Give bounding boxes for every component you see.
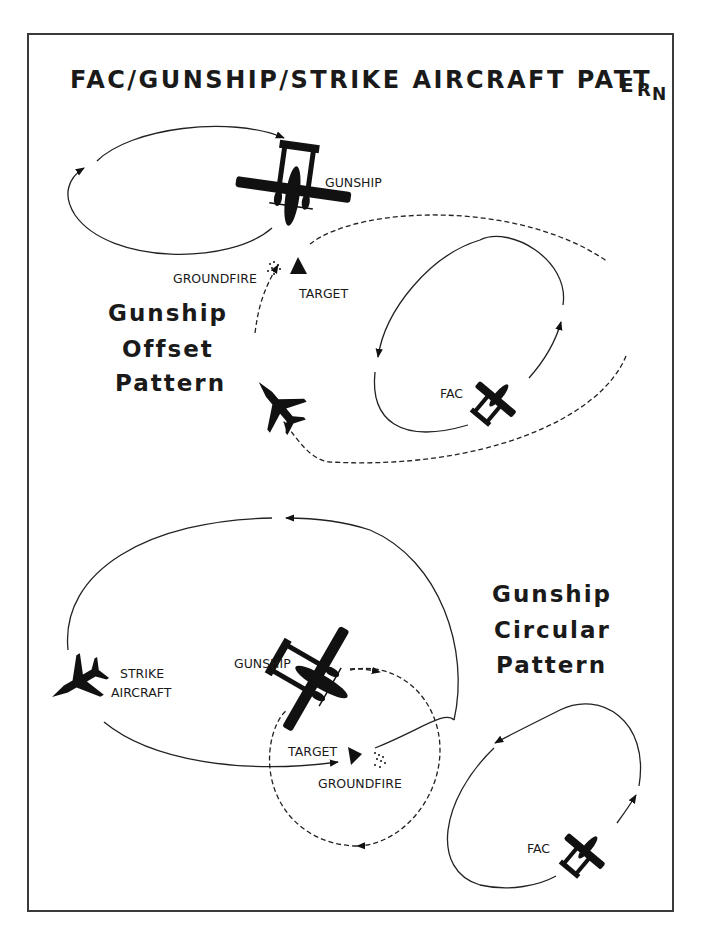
circular-heading-line1: Gunship [492, 581, 612, 607]
groundfire-label: GROUNDFIRE [173, 271, 257, 286]
fac-aircraft-icon [461, 369, 527, 434]
offset-heading-line3: Pattern [115, 370, 226, 396]
strike-jet-icon [240, 367, 315, 443]
fac-label: FAC [527, 841, 550, 856]
svg-text:E: E [620, 73, 636, 97]
diagram-title: FAC/GUNSHIP/STRIKE AIRCRAFT PATT E R N [70, 66, 669, 104]
target-triangle-icon [348, 747, 362, 765]
fac-orbit-arrow [495, 704, 641, 786]
offset-heading-line2: Offset [122, 336, 214, 362]
offset-pattern: GUNSHIP GROUNDFIRE TARGET Gunship Offset… [68, 126, 626, 462]
strike-label-line1: STRIKE [120, 666, 164, 681]
target-triangle-icon [290, 257, 307, 274]
gunship-label: GUNSHIP [234, 656, 291, 671]
target-label: TARGET [287, 744, 337, 759]
svg-text:FAC/GUNSHIP/STRIKE AIRCRAFT PA: FAC/GUNSHIP/STRIKE AIRCRAFT PATT [70, 66, 652, 94]
groundfire-dots-icon [267, 261, 281, 275]
strike-orbit-dashed [284, 356, 626, 463]
circular-pattern: STRIKE AIRCRAFT GUNSHIP TARGET GROUNDFIR… [40, 518, 641, 888]
strike-orbit-arrow [68, 518, 272, 650]
gunship-label: GUNSHIP [325, 175, 382, 190]
fac-aircraft-icon [550, 821, 616, 886]
pattern-diagram: FAC/GUNSHIP/STRIKE AIRCRAFT PATT E R N G… [0, 0, 704, 944]
groundfire-label: GROUNDFIRE [318, 776, 402, 791]
strike-jet-icon [40, 647, 115, 718]
strike-label-line2: AIRCRAFT [111, 685, 172, 700]
fac-orbit-arrow [378, 236, 564, 357]
gunship-orbit-arrow [97, 126, 284, 161]
fac-orbit-arrow [374, 372, 468, 432]
offset-heading-line1: Gunship [108, 300, 228, 326]
circular-heading-line2: Circular [494, 617, 611, 643]
fac-orbit-arrow [617, 795, 636, 823]
fac-label: FAC [440, 386, 463, 401]
groundfire-dots-icon [374, 752, 386, 768]
svg-text:N: N [652, 84, 669, 104]
gunship-aircraft-icon [246, 605, 377, 747]
strike-orbit-arrow [375, 717, 454, 748]
svg-text:R: R [637, 79, 653, 100]
strike-orbit-dashed [310, 215, 608, 262]
strike-orbit-dashed [255, 265, 278, 333]
target-label: TARGET [298, 286, 348, 301]
circular-heading-line3: Pattern [496, 652, 607, 678]
gunship-orbit-dashed [350, 668, 440, 846]
fac-orbit-arrow [447, 748, 556, 888]
fac-orbit-arrow [529, 322, 561, 378]
